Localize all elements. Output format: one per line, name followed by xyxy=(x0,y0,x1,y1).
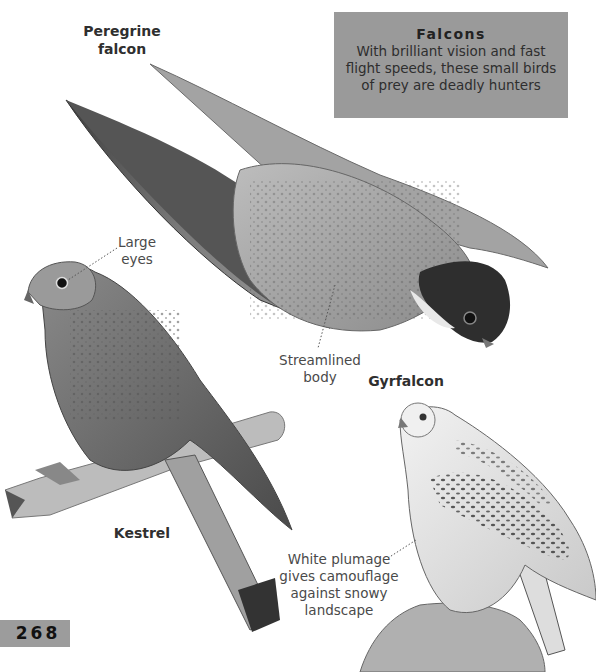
species-name-kestrel: Kestrel xyxy=(102,524,182,542)
kestrel-illustration xyxy=(5,262,292,632)
annotation-streamlined-body: Streamlined body xyxy=(270,352,370,386)
gyrfalcon-illustration xyxy=(360,403,596,672)
annotation-white-plumage: White plumage gives camouflage against s… xyxy=(278,551,400,619)
species-name-gyrfalcon: Gyrfalcon xyxy=(366,372,446,390)
annotation-line: Large xyxy=(112,234,162,251)
annotation-line: body xyxy=(270,369,370,386)
info-body-line: of prey are deadly hunters xyxy=(334,77,568,94)
page-number: 268 xyxy=(0,620,70,647)
annotation-line: Streamlined xyxy=(270,352,370,369)
species-name-line: falcon xyxy=(72,40,172,58)
annotation-large-eyes: Large eyes xyxy=(112,234,162,268)
annotation-line: White plumage xyxy=(278,551,400,568)
annotation-line: against snowy xyxy=(278,585,400,602)
info-title: Falcons xyxy=(334,26,568,43)
species-name-peregrine: Peregrine falcon xyxy=(72,22,172,58)
info-body-line: flight speeds, these small birds xyxy=(334,60,568,77)
info-box: Falcons With brilliant vision and fast f… xyxy=(334,12,568,118)
info-body-line: With brilliant vision and fast xyxy=(334,43,568,60)
annotation-line: eyes xyxy=(112,251,162,268)
species-name-line: Peregrine xyxy=(72,22,172,40)
annotation-line: landscape xyxy=(278,602,400,619)
annotation-line: gives camouflage xyxy=(278,568,400,585)
